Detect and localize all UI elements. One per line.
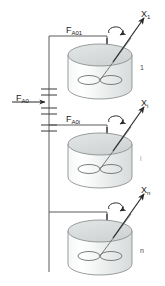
reactor-1-rotation-arrow-icon xyxy=(109,27,123,35)
reactor-n-rotation-arrow-icon xyxy=(109,203,123,211)
reactor-index-i: i xyxy=(140,155,142,162)
reactor-n-top xyxy=(68,220,132,242)
reactor-index-n: n xyxy=(140,247,144,254)
outlet-label-i: Xi xyxy=(141,93,148,109)
branch-feed-label-i: FA0i xyxy=(66,109,80,125)
reactor-1-top xyxy=(68,44,132,66)
outlet-label-1: X1 xyxy=(141,4,150,20)
reactor-i-rotation-arrow-icon xyxy=(109,116,123,124)
main-feed-label: FA0 xyxy=(16,88,29,104)
outlet-label-n: Xn xyxy=(141,180,150,196)
branch-feed-label-1: FA01 xyxy=(66,20,82,36)
diagram-canvas xyxy=(0,0,165,286)
reactor-n xyxy=(68,194,144,275)
reactor-i-top xyxy=(68,133,132,155)
reactor-index-1: 1 xyxy=(140,64,144,71)
process-flow-diagram: X1 Xi Xn FA01 FA0i FA0 1 i n xyxy=(0,0,165,286)
